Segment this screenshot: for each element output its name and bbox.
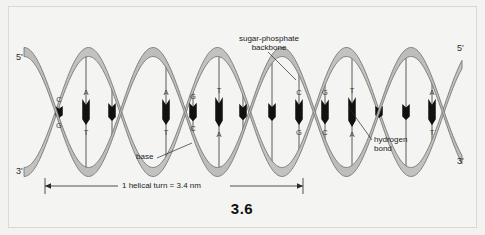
- base-letter-top: A: [429, 87, 434, 96]
- base-letter-bottom: C: [322, 127, 327, 136]
- base-letter-bottom: G: [296, 128, 302, 137]
- backbone-callout-line1: sugar-phosphate: [236, 34, 302, 43]
- base-letter-top: A: [83, 88, 88, 97]
- base-letter-bottom: A: [216, 130, 221, 139]
- base-letter-bottom: C: [190, 124, 195, 133]
- base-letter-bottom: T: [430, 128, 435, 137]
- base-letter-top: T: [217, 86, 222, 95]
- base-letter-top: T: [350, 86, 355, 95]
- end-label-left-top: 5': [16, 52, 23, 62]
- base-letter-top: G: [190, 91, 196, 100]
- base-letter-bottom: T: [84, 128, 89, 137]
- hydrogen-bond-callout: hydrogen bond: [374, 135, 407, 153]
- hydrogen-bond-callout-line2: bond: [374, 144, 407, 153]
- base-letter-top: A: [163, 88, 168, 97]
- figure-number: 3.6: [231, 200, 253, 217]
- base-callout: base: [136, 152, 153, 161]
- end-label-right-bottom: 3': [457, 156, 464, 166]
- base-letter-bottom: G: [56, 121, 62, 130]
- base-letter-top: C: [296, 88, 301, 97]
- backbone-callout-line2: backbone: [236, 43, 302, 52]
- dna-figure: CGATATGCTACGGCTAAT 5' 3' 5' 3' sugar-pho…: [0, 0, 485, 235]
- end-label-left-bottom: 3': [16, 166, 23, 176]
- base-letter-bottom: T: [164, 128, 169, 137]
- backbone-callout: sugar-phosphate backbone: [236, 34, 302, 52]
- helical-turn-label: 1 helical turn = 3.4 nm: [122, 181, 201, 190]
- base-letter-top: C: [56, 95, 61, 104]
- base-letter-bottom: A: [349, 130, 354, 139]
- figure-number-box: 3.6: [218, 198, 266, 219]
- base-letter-top: G: [322, 88, 328, 97]
- end-label-right-top: 5': [457, 43, 464, 53]
- hydrogen-bond-callout-line1: hydrogen: [374, 135, 407, 144]
